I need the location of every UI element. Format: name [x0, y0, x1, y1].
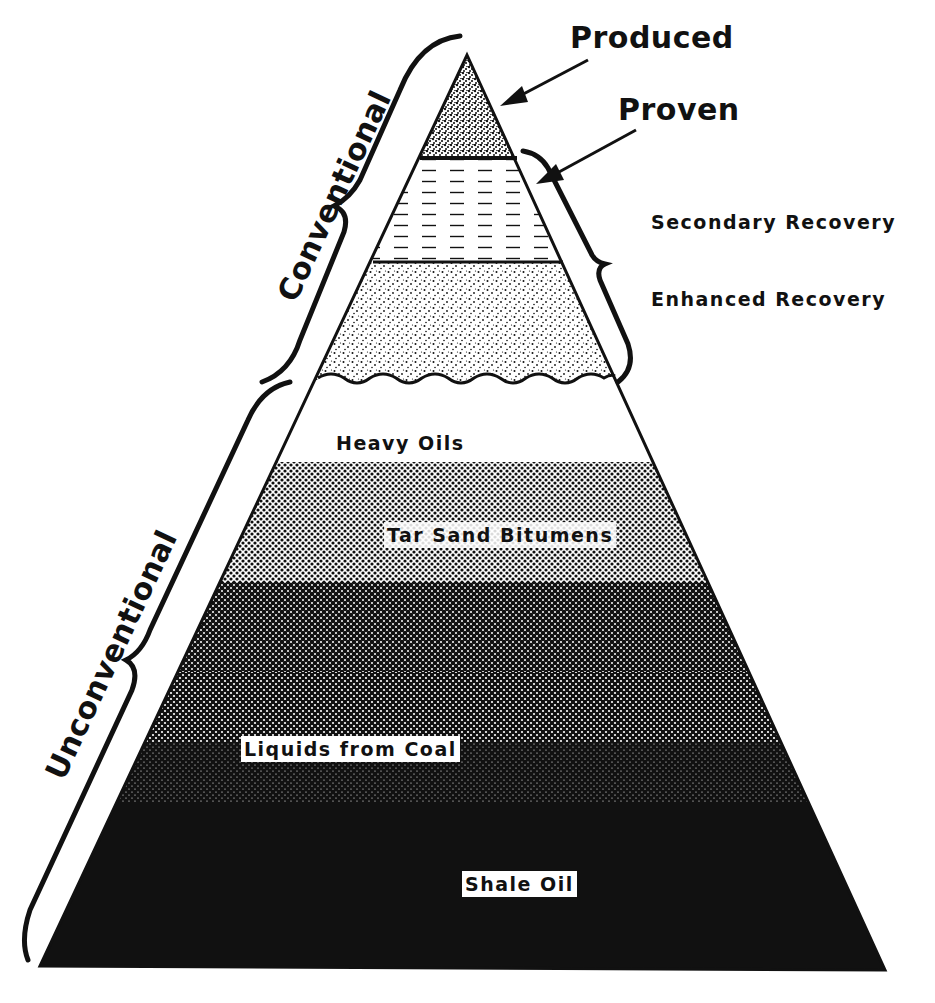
- layer-proven: [0, 158, 935, 262]
- produced-arrow: [500, 60, 588, 106]
- resource-pyramid-diagram: [0, 0, 935, 1003]
- layer-recovery: [0, 262, 935, 382]
- produced-label: Produced: [570, 20, 734, 55]
- tar-sand-label: Tar Sand Bitumens: [384, 522, 616, 548]
- pyramid-layers: [0, 40, 935, 982]
- shale-oil-label: Shale Oil: [462, 871, 577, 897]
- liquids-coal-label: Liquids from Coal: [241, 736, 460, 762]
- heavy-oils-label: Heavy Oils: [336, 432, 464, 454]
- enhanced-recovery-label: Enhanced Recovery: [651, 288, 886, 310]
- proven-arrow: [536, 130, 636, 184]
- secondary-recovery-label: Secondary Recovery: [651, 211, 896, 233]
- layer-heavy-oils: [0, 384, 935, 462]
- proven-label: Proven: [618, 92, 740, 127]
- layer-liquids-coal: [0, 672, 935, 742]
